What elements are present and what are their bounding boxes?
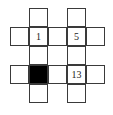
grid-cell-r0-c1[interactable]	[29, 8, 48, 27]
grid-cell-r1-c4[interactable]	[86, 27, 105, 46]
grid-cell-r1-c2[interactable]	[48, 27, 67, 46]
number-grid-puzzle: 1 5 13	[10, 8, 105, 103]
grid-cell-r1-c1[interactable]: 1	[29, 27, 48, 46]
grid-cell-r2-c3[interactable]	[67, 46, 86, 65]
grid-cell-r1-c0[interactable]	[10, 27, 29, 46]
grid-cell-r4-c3[interactable]	[67, 84, 86, 103]
grid-cell-r1-c3[interactable]: 5	[67, 27, 86, 46]
grid-cell-r2-c1[interactable]	[29, 46, 48, 65]
grid-cell-r3-c1-black	[29, 65, 48, 84]
grid-cell-r3-c4[interactable]	[86, 65, 105, 84]
grid-cell-r3-c0[interactable]	[10, 65, 29, 84]
grid-cell-r4-c1[interactable]	[29, 84, 48, 103]
grid-cell-r0-c3[interactable]	[67, 8, 86, 27]
grid-cell-r3-c3[interactable]: 13	[67, 65, 86, 84]
grid-cell-r3-c2[interactable]	[48, 65, 67, 84]
